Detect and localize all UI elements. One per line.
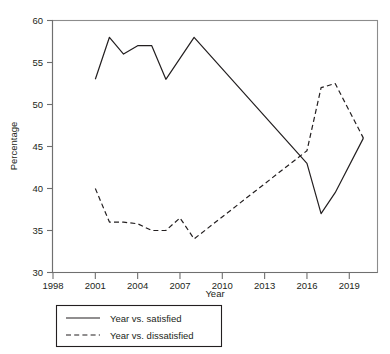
x-tick-label: 1998 [42, 280, 63, 291]
x-tick-label: 2013 [254, 280, 275, 291]
legend-label-satisfied: Year vs. satisfied [110, 313, 181, 324]
y-tick-label: 35 [32, 225, 43, 236]
legend-label-dissatisfied: Year vs. dissatisfied [110, 330, 194, 341]
y-tick-label: 40 [32, 183, 43, 194]
series-line-dissatisfied [95, 84, 363, 239]
y-tick-label: 55 [32, 57, 43, 68]
series-line-satisfied [95, 37, 363, 213]
y-tick-label: 30 [32, 267, 43, 278]
x-tick-label: 2007 [169, 280, 190, 291]
y-tick-label: 45 [32, 141, 43, 152]
data-series-group [95, 37, 363, 239]
plot-frame [53, 21, 378, 273]
line-chart: 30354045505560 1998200120042007201020132… [0, 0, 390, 354]
chart-container: 30354045505560 1998200120042007201020132… [0, 0, 390, 354]
y-axis: 30354045505560 [32, 15, 53, 278]
y-axis-title: Percentage [8, 122, 19, 171]
x-tick-label: 2001 [85, 280, 106, 291]
y-tick-label: 50 [32, 99, 43, 110]
x-axis-title: Year [205, 288, 224, 299]
chart-legend: Year vs. satisfied Year vs. dissatisfied [57, 306, 222, 347]
x-tick-label: 2016 [296, 280, 317, 291]
x-tick-label: 2019 [339, 280, 360, 291]
x-tick-label: 2004 [127, 280, 148, 291]
y-tick-label: 60 [32, 15, 43, 26]
